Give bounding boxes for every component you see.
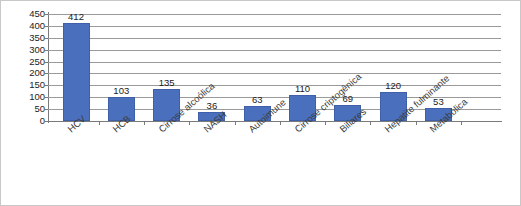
x-axis-tick: [416, 121, 417, 125]
bar-value-label: 120: [370, 81, 416, 91]
bar-value-label: 412: [53, 12, 99, 22]
y-axis-tick-label: 450: [5, 9, 45, 18]
y-axis-tick-label: 0: [5, 116, 45, 125]
gridline: [48, 38, 501, 39]
y-axis-tick-label: 300: [5, 45, 45, 54]
x-axis-tick: [189, 121, 190, 125]
bar-value-label: 135: [144, 78, 190, 88]
x-axis-tick: [235, 121, 236, 125]
gridline: [48, 50, 501, 51]
y-axis-tick-label: 350: [5, 33, 45, 42]
y-axis-tick-label: 250: [5, 57, 45, 66]
x-axis-tick: [370, 121, 371, 125]
x-axis-tick: [461, 121, 462, 125]
gridline: [48, 26, 501, 27]
bar: [63, 23, 90, 121]
y-axis-tick: [44, 97, 48, 98]
x-axis-tick: [280, 121, 281, 125]
gridline: [48, 14, 501, 15]
y-axis-tick: [44, 26, 48, 27]
y-axis-tick: [44, 62, 48, 63]
gridline: [48, 73, 501, 74]
y-axis-tick: [44, 38, 48, 39]
bar-value-label: 103: [98, 86, 144, 96]
x-axis-tick: [325, 121, 326, 125]
y-axis-tick: [44, 109, 48, 110]
y-axis-tick-label: 200: [5, 68, 45, 77]
bar-value-label: 110: [280, 84, 326, 94]
bar-chart: 450400350300250200150100500 412103135366…: [0, 0, 521, 206]
y-axis-tick: [44, 73, 48, 74]
y-axis-tick: [44, 121, 48, 122]
y-axis-tick-label: 100: [5, 92, 45, 101]
y-axis-tick: [44, 14, 48, 15]
gridline: [48, 62, 501, 63]
x-axis-tick: [144, 121, 145, 125]
y-axis-tick: [44, 85, 48, 86]
y-axis-tick-label: 400: [5, 21, 45, 30]
y-axis-tick-label: 150: [5, 80, 45, 89]
y-axis-tick-labels: 450400350300250200150100500: [1, 1, 45, 206]
y-axis-tick: [44, 50, 48, 51]
y-axis-tick-label: 50: [5, 104, 45, 113]
x-axis-tick: [99, 121, 100, 125]
